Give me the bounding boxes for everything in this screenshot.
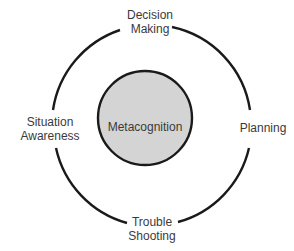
center-label: Metacognition xyxy=(95,120,195,134)
ring-arc-bottom-left xyxy=(56,148,127,223)
metacognition-circle xyxy=(98,71,192,165)
node-situation-awareness: Situation Awareness xyxy=(10,115,90,143)
node-trouble-shooting: Trouble Shooting xyxy=(112,215,192,243)
node-label-line2: Making xyxy=(110,22,190,36)
node-label-line1: Trouble xyxy=(112,215,192,229)
node-decision-making: Decision Making xyxy=(110,8,190,36)
node-label-line2: Awareness xyxy=(10,129,90,143)
ring-arc-bottom-right xyxy=(178,148,249,222)
node-label-line1: Situation xyxy=(10,115,90,129)
node-planning: Planning xyxy=(228,121,294,135)
node-label-line1: Decision xyxy=(110,8,190,22)
node-label-line2: Shooting xyxy=(112,229,192,243)
node-label-line1: Planning xyxy=(228,121,294,135)
